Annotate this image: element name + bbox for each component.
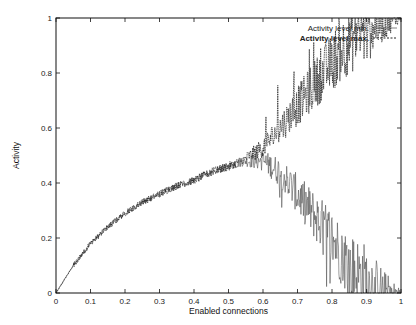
x-tick-label: 0.9 [361, 297, 373, 306]
x-tick-label: 0.2 [119, 297, 131, 306]
x-tick-label: 0.6 [257, 297, 269, 306]
x-tick-label: 0.4 [188, 297, 200, 306]
y-tick-label: 0.2 [41, 234, 53, 243]
y-tick-label: 1 [48, 14, 53, 23]
legend-label-min: Activity level min. [308, 24, 369, 33]
y-tick-label: 0.6 [41, 124, 53, 133]
x-tick-label: 0.3 [154, 297, 166, 306]
y-tick-label: 0.8 [41, 69, 53, 78]
x-tick-label: 0.5 [223, 297, 235, 306]
series-activity-max [56, 18, 401, 293]
line-chart: 00.10.20.30.40.50.60.70.80.91 00.20.40.6… [0, 0, 416, 325]
legend: Activity level min. Activity level max. [300, 23, 397, 45]
x-tick-label: 0.1 [85, 297, 97, 306]
x-tick-label: 0.8 [326, 297, 338, 306]
series-activity-min [56, 153, 401, 293]
x-tick-label: 1 [399, 297, 404, 306]
y-tick-label: 0.4 [41, 179, 53, 188]
x-tick-label: 0.7 [292, 297, 304, 306]
y-tick-label: 0 [48, 289, 53, 298]
y-axis-label: Activity [11, 141, 21, 169]
x-axis-ticks: 00.10.20.30.40.50.60.70.80.91 [54, 18, 404, 306]
legend-label-max: Activity level max. [300, 34, 369, 43]
x-axis-label: Enabled connections [189, 306, 268, 316]
x-tick-label: 0 [54, 297, 59, 306]
